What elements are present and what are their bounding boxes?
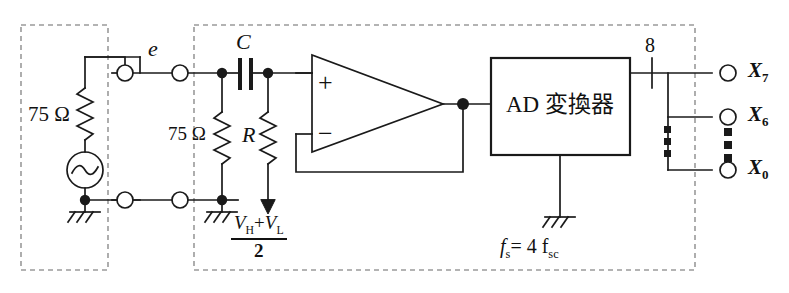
junction-source-bottom (80, 195, 90, 205)
circuit-diagram-figure: 75 Ω e 75 Ω C R + − AD 変換器 8 fs= 4 fsc V… (0, 0, 789, 293)
ad-clock-hatch2 (552, 217, 559, 227)
input-terminal-top-right (172, 65, 188, 81)
ground-term-hatch1 (205, 212, 212, 222)
ground-term-hatch3 (223, 212, 230, 222)
resistor-term-body (214, 112, 230, 164)
junction-opamp-output (457, 98, 469, 110)
resistor-bias-body (260, 112, 276, 164)
schematic-canvas (0, 0, 789, 293)
output-x0-subscript: 0 (762, 167, 769, 182)
input-signal-label: e (148, 38, 158, 60)
vl-subscript: L (276, 224, 283, 237)
dashed-box-source (21, 25, 108, 270)
ad-clock-hatch3 (561, 217, 568, 227)
resistor-source-body (77, 88, 93, 140)
bias-voltage-expression: VH+VL 2 (231, 213, 287, 261)
bias-plus: + (254, 212, 265, 233)
output-x7-subscript: 7 (762, 70, 769, 85)
input-terminal-bottom-left (117, 192, 133, 208)
capacitor-label: C (236, 31, 251, 53)
output-terminal-x6 (720, 109, 736, 125)
output-x0-name: X (748, 155, 762, 179)
resistor-label: R (242, 124, 255, 146)
junction-term-ground (217, 195, 227, 205)
fsc-subscript: sc (548, 247, 558, 261)
bus-ellipsis (664, 126, 671, 157)
opamp-inverting-label: − (318, 121, 333, 147)
ac-source-sine (72, 166, 98, 175)
ground-source-hatch2 (77, 212, 84, 222)
fs-equals: = 4 f (510, 235, 548, 257)
ground-source-hatch1 (68, 212, 75, 222)
ad-converter-label: AD 変換器 (506, 93, 614, 116)
bus-width-label: 8 (645, 35, 655, 55)
source-impedance-label: 75 Ω (28, 104, 70, 125)
vl-symbol: V (265, 212, 277, 233)
output-terminal-x0 (720, 162, 736, 178)
output-x6-name: X (748, 102, 762, 126)
bias-denominator: 2 (231, 240, 287, 261)
output-label-x7: X7 (748, 60, 769, 84)
bias-numerator: VH+VL (231, 213, 287, 240)
vh-subscript: H (246, 224, 255, 237)
sampling-frequency-label: fs= 4 fsc (500, 236, 559, 260)
input-terminal-top-left (117, 65, 133, 81)
output-ellipsis (724, 128, 732, 162)
junction-coupling-out (263, 68, 273, 78)
input-terminal-bottom-right (172, 192, 188, 208)
ground-source-hatch3 (86, 212, 93, 222)
output-x7-name: X (748, 58, 762, 82)
output-terminal-x7 (720, 65, 736, 81)
vh-symbol: V (234, 212, 246, 233)
ad-clock-hatch1 (543, 217, 550, 227)
output-label-x0: X0 (748, 157, 769, 181)
output-x6-subscript: 6 (762, 114, 769, 129)
junction-coupling-in (217, 68, 227, 78)
termination-impedance-label: 75 Ω (168, 124, 206, 143)
opamp-noninverting-label: + (318, 70, 333, 96)
output-label-x6: X6 (748, 104, 769, 128)
ground-term-hatch2 (214, 212, 221, 222)
